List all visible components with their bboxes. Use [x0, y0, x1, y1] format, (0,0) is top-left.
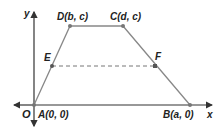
x-axis-label: x: [206, 109, 213, 120]
label-c: C(d, c): [110, 11, 142, 22]
point-e: [50, 64, 54, 68]
origin-label: O: [22, 108, 31, 120]
label-d: D(b, c): [57, 11, 89, 22]
trapezoid: [34, 26, 190, 105]
label-a: A(0, 0): [37, 109, 69, 120]
point-b: [188, 103, 192, 107]
label-f: F: [155, 51, 162, 62]
coordinate-diagram: y x O A(0, 0) B(a, 0) D(b, c) C(d, c) E …: [0, 0, 224, 136]
point-a: [32, 103, 36, 107]
label-d-name: D: [57, 11, 64, 22]
label-d-coords: (b, c): [64, 11, 89, 22]
point-f: [153, 64, 157, 68]
label-b: B(a, 0): [163, 109, 194, 120]
label-a-name: A: [37, 109, 45, 120]
label-c-coords: (d, c): [117, 11, 142, 22]
point-d: [68, 24, 72, 28]
label-e: E: [44, 52, 51, 63]
label-b-coords: (a, 0): [170, 109, 194, 120]
label-b-name: B: [163, 109, 170, 120]
label-a-coords: (0, 0): [45, 109, 69, 120]
point-c: [121, 24, 125, 28]
y-axis-label: y: [23, 8, 30, 19]
